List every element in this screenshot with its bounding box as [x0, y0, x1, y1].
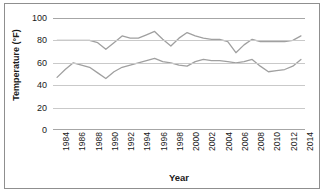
x-tick-label: 1992: [126, 132, 136, 151]
x-tick-label: 1988: [94, 132, 104, 151]
x-tick-label: 1996: [159, 132, 169, 151]
y-axis-tick-labels: 020406080100: [21, 4, 47, 190]
series-line-1: [57, 31, 301, 52]
x-axis-title: Year: [53, 172, 305, 183]
series-line-2: [57, 58, 301, 78]
x-tick-label: 1998: [175, 132, 185, 151]
gridline: [53, 63, 305, 64]
series-lines: [53, 18, 305, 130]
y-tick-label: 80: [37, 35, 47, 45]
x-tick-label: 1990: [110, 132, 120, 151]
y-tick-label: 40: [37, 80, 47, 90]
chart-container: Temperature (°F) 020406080100 1984198619…: [5, 4, 319, 188]
x-tick-label: 1986: [77, 132, 87, 151]
y-tick-label: 0: [42, 125, 47, 135]
plot-area: [53, 18, 305, 130]
x-axis-tick-labels: 1984198619881990199219941996199820002002…: [53, 132, 305, 172]
gridline: [53, 108, 305, 109]
x-tick-label: 2000: [191, 132, 201, 151]
x-tick-label: 2010: [272, 132, 282, 151]
gridline: [53, 85, 305, 86]
x-tick-label: 1994: [142, 132, 152, 151]
y-tick-label: 20: [37, 103, 47, 113]
x-tick-label: 2008: [256, 132, 266, 151]
y-tick-label: 60: [37, 58, 47, 68]
x-tick-label: 2014: [305, 132, 315, 151]
y-axis-title: Temperature (°F): [11, 10, 21, 120]
x-tick-label: 2012: [289, 132, 299, 151]
chart-frame: Temperature (°F) 020406080100 1984198619…: [4, 3, 320, 189]
x-tick-label: 1984: [61, 132, 71, 151]
gridline: [53, 40, 305, 41]
y-tick-label: 100: [32, 13, 47, 23]
x-tick-label: 2002: [207, 132, 217, 151]
x-tick-label: 2004: [224, 132, 234, 151]
x-tick-label: 2006: [240, 132, 250, 151]
